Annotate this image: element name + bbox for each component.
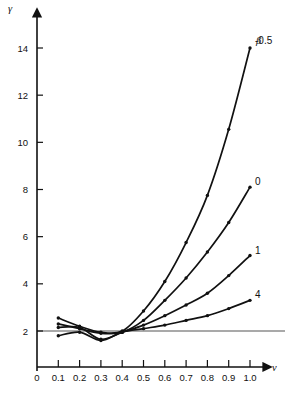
data-point-beta-0: [57, 322, 60, 325]
data-point-beta-4: [57, 334, 60, 337]
series-label-beta-1: 1: [255, 245, 261, 256]
data-point-beta-1: [57, 326, 60, 329]
data-point-beta-minus-0-5: [248, 46, 251, 49]
data-point-beta-1: [248, 254, 251, 257]
series-label-beta-0: 0: [255, 176, 261, 187]
y-tick-label: 6: [23, 231, 28, 242]
data-point-beta-0: [248, 185, 251, 188]
data-point-beta-4: [248, 299, 251, 302]
gamma-nu-line-chart: 2468101214 00.10.20.30.40.50.60.70.80.91…: [0, 0, 290, 394]
data-point-beta-0: [206, 250, 209, 253]
y-tick-label: 4: [23, 278, 28, 289]
data-point-beta-minus-0-5: [184, 241, 187, 244]
x-tick-label: 0.4: [116, 372, 129, 383]
series-label-beta-4: 4: [255, 289, 261, 300]
data-point-beta-1: [206, 292, 209, 295]
y-tick-label: 2: [23, 326, 28, 337]
data-point-beta-4: [121, 330, 124, 333]
data-point-beta-minus-0-5: [206, 194, 209, 197]
data-point-beta-minus-0-5: [57, 316, 60, 319]
data-point-beta-4: [99, 339, 102, 342]
data-point-beta-1: [184, 303, 187, 306]
data-point-beta-0: [184, 276, 187, 279]
data-point-beta-minus-0-5: [142, 309, 145, 312]
x-tick-label: 0.8: [201, 372, 214, 383]
y-tick-label: 12: [17, 90, 28, 101]
x-tick-label: 0.1: [52, 372, 65, 383]
data-point-beta-4: [78, 330, 81, 333]
curve-beta-minus-0-5: [58, 48, 250, 333]
data-point-beta-4: [142, 327, 145, 330]
data-point-beta-4: [184, 319, 187, 322]
data-point-beta-4: [227, 307, 230, 310]
series-label-group: -0.5014: [255, 35, 273, 300]
x-tick-label: 0.7: [179, 372, 192, 383]
y-tick-label: 14: [17, 43, 28, 54]
x-axis-ticks: 00.10.20.30.40.50.60.70.80.91.0: [34, 360, 256, 383]
data-point-beta-1: [142, 323, 145, 326]
y-axis-title: γ: [8, 3, 13, 14]
data-point-beta-4: [163, 323, 166, 326]
data-point-beta-0: [227, 221, 230, 224]
data-point-beta-minus-0-5: [227, 128, 230, 131]
data-point-beta-1: [78, 326, 81, 329]
x-tick-label: 0.2: [73, 372, 86, 383]
y-tick-label: 10: [17, 137, 28, 148]
data-point-beta-1: [227, 274, 230, 277]
x-tick-label: 0.5: [137, 372, 150, 383]
chart-figure: 2468101214 00.10.20.30.40.50.60.70.80.91…: [0, 0, 290, 394]
y-tick-label: 8: [23, 184, 28, 195]
x-tick-label: 0.3: [94, 372, 107, 383]
x-tick-label: 0.6: [158, 372, 171, 383]
legend-symbol-beta: β: [255, 35, 262, 46]
x-tick-label: 0: [34, 372, 39, 383]
y-axis-ticks: 2468101214: [17, 43, 43, 337]
data-point-beta-0: [163, 299, 166, 302]
data-point-beta-minus-0-5: [163, 280, 166, 283]
data-point-beta-1: [163, 314, 166, 317]
x-tick-label: 1.0: [243, 372, 256, 383]
series-group: [58, 48, 250, 340]
data-point-beta-0: [99, 332, 102, 335]
x-axis-title: ν: [272, 362, 277, 373]
data-point-beta-0: [142, 319, 145, 322]
x-tick-label: 0.9: [222, 372, 235, 383]
data-point-beta-4: [206, 314, 209, 317]
